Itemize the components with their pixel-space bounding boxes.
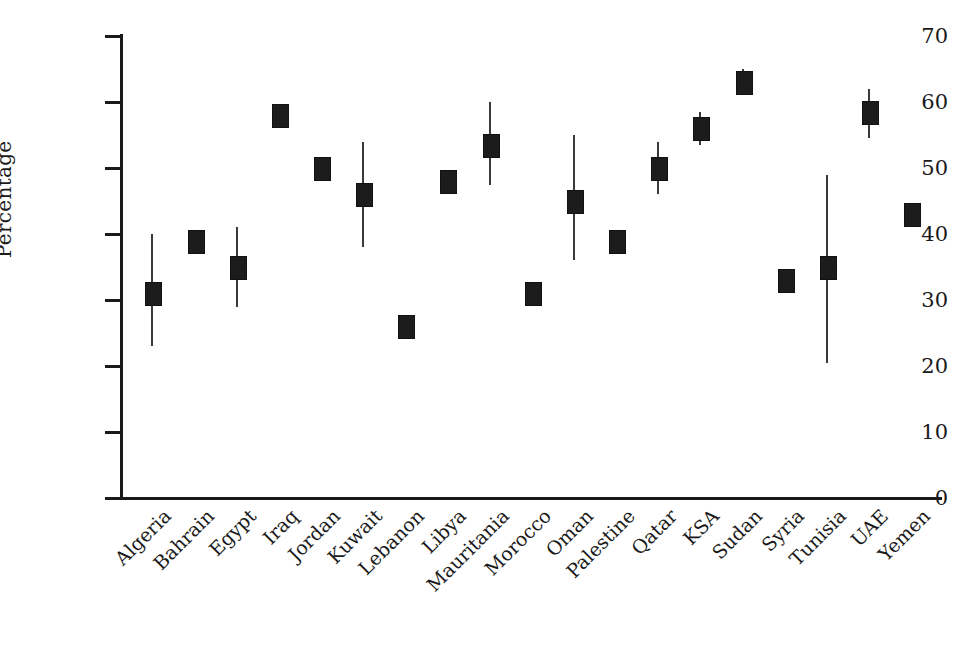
marker (525, 282, 542, 306)
y-tick-0 (105, 497, 122, 500)
y-tick-40 (105, 233, 122, 236)
marker (820, 256, 837, 280)
y-tick-label-30: 30 (888, 290, 948, 311)
y-tick-label-10: 10 (888, 422, 948, 443)
marker (356, 183, 373, 207)
marker (693, 117, 710, 141)
y-tick-60 (105, 101, 122, 104)
marker (651, 157, 668, 181)
y-tick-label-20: 20 (888, 356, 948, 377)
y-tick-50 (105, 167, 122, 170)
x-tick-label-qatar: Qatar (628, 506, 680, 558)
y-tick-label-60: 60 (888, 92, 948, 113)
y-tick-10 (105, 431, 122, 434)
marker (736, 71, 753, 95)
marker (440, 170, 457, 194)
marker (778, 269, 795, 293)
marker (188, 230, 205, 254)
marker (145, 282, 162, 306)
marker (609, 230, 626, 254)
marker (398, 315, 415, 339)
y-tick-label-50: 50 (888, 158, 948, 179)
marker (314, 157, 331, 181)
marker (230, 256, 247, 280)
marker (483, 134, 500, 158)
marker (862, 101, 879, 125)
marker (567, 190, 584, 214)
y-tick-label-70: 70 (888, 26, 948, 47)
y-tick-20 (105, 365, 122, 368)
chart-figure: 010203040506070 Percentage AlgeriaBahrai… (0, 0, 974, 647)
y-tick-30 (105, 299, 122, 302)
y-tick-label-40: 40 (888, 224, 948, 245)
plot-area (122, 36, 942, 498)
y-tick-70 (105, 35, 122, 38)
y-axis-title: Percentage (0, 141, 16, 258)
x-tick-label-egypt: Egypt (206, 506, 259, 559)
marker (272, 104, 289, 128)
